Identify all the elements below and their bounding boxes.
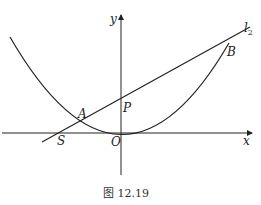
x-axis-label: x (243, 134, 250, 148)
point-a-label: A (77, 107, 87, 121)
origin-label: O (111, 135, 121, 149)
figure-caption: 图 12.19 (103, 187, 149, 200)
parabola (10, 37, 229, 135)
diagram-canvas: y x l2 B P A S O 图 12.19 (0, 0, 261, 205)
point-s-label: S (57, 134, 65, 148)
figure: y x l2 B P A S O 图 12.19 (0, 0, 261, 205)
line-l2 (42, 27, 250, 142)
y-axis-label: y (109, 12, 117, 26)
point-p-label: P (122, 101, 132, 115)
point-b-label: B (226, 45, 236, 59)
line-label: l2 (244, 21, 253, 37)
